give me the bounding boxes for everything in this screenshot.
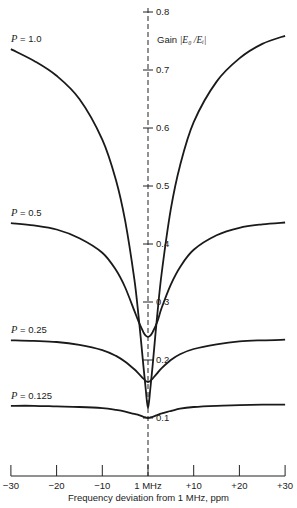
series-label: P = 0.25 [11, 325, 47, 336]
y-axis-label: Gain |E₀ /Eᵢ| [157, 35, 206, 46]
x-tick-label: 1 MHz [128, 481, 168, 491]
y-tick-label: 0.4 [156, 239, 169, 249]
y-tick-label: 0.8 [156, 7, 169, 17]
y-tick-label: 0.5 [156, 181, 169, 191]
x-tick-label: −20 [37, 481, 77, 491]
chart-canvas [0, 0, 297, 508]
x-tick-label: +10 [174, 481, 214, 491]
y-axis-label-formula: |E₀ /Eᵢ| [180, 35, 207, 45]
x-axis-label: Frequency deviation from 1 MHz, ppm [0, 492, 297, 503]
y-tick-label: 0.1 [156, 413, 169, 423]
series-label: P = 1.0 [11, 34, 41, 45]
series-label: P = 0.5 [11, 208, 41, 219]
y-tick-label: 0.2 [156, 355, 169, 365]
x-tick-label: −10 [82, 481, 122, 491]
y-tick-label: 0.3 [156, 297, 169, 307]
x-tick-label: +30 [265, 481, 297, 491]
y-tick-label: 0.7 [156, 65, 169, 75]
x-tick-label: +20 [219, 481, 259, 491]
curve-p-05 [11, 223, 285, 337]
x-tick-label: −30 [0, 481, 31, 491]
series-label: P = 0.125 [11, 391, 52, 402]
y-tick-label: 0.6 [156, 123, 169, 133]
y-axis-label-prefix: Gain [157, 34, 177, 45]
